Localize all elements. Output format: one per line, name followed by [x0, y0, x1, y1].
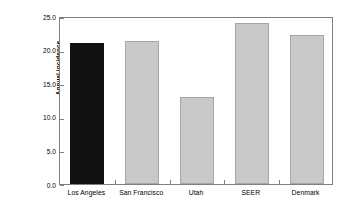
bar-utah[interactable]: [180, 97, 214, 184]
y-axis-tick-label: 10.0: [32, 114, 56, 121]
x-axis-tick-label: Denmark: [278, 188, 333, 197]
bar-san-francisco[interactable]: [125, 41, 159, 184]
y-axis-tick-label: 0.0: [32, 182, 56, 189]
bar-denmark[interactable]: [290, 35, 324, 184]
x-axis-tick-label: Los Angeles: [59, 188, 114, 197]
x-axis-tick-label: SEER: [223, 188, 278, 197]
plot-area: [59, 17, 333, 185]
x-axis-tick-label: Utah: [169, 188, 224, 197]
y-axis-tick-label: 5.0: [32, 148, 56, 155]
y-axis-tick-label: 15.0: [32, 81, 56, 88]
x-axis-tick-label: San Francisco: [114, 188, 169, 197]
bar-seer[interactable]: [235, 23, 269, 184]
bar-los-angeles[interactable]: [70, 43, 104, 184]
y-axis-tick-labels: 0.05.010.015.020.025.0: [30, 0, 56, 211]
y-axis-tick-label: 20.0: [32, 47, 56, 54]
bar-chart-figure: Annual incidence (per 100,000) 0.05.010.…: [0, 0, 349, 211]
y-axis-tick-label: 25.0: [32, 14, 56, 21]
bars-group: [60, 18, 332, 184]
y-axis-tick-mark: [60, 185, 64, 186]
x-axis-tick-labels: Los AngelesSan FranciscoUtahSEERDenmark: [59, 188, 333, 204]
